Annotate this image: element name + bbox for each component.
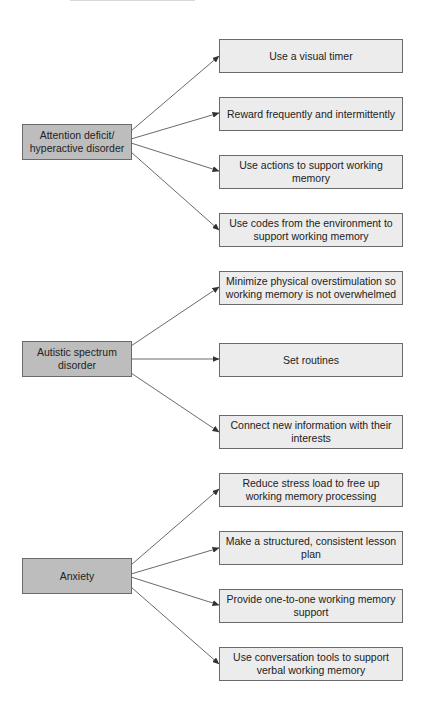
strategy-label: Connect new information with their inter…: [224, 419, 398, 445]
strategy-label: Reward frequently and intermittently: [227, 108, 395, 121]
strategy-label: Use actions to support working memory: [224, 159, 398, 185]
category-label: Autistic spectrum disorder: [27, 346, 127, 372]
strategy-label: Provide one-to-one working memory suppor…: [224, 593, 398, 619]
strategy-lesson-plan: Make a structured, consistent lesson pla…: [219, 531, 403, 565]
strategy-one-to-one: Provide one-to-one working memory suppor…: [219, 589, 403, 623]
strategy-reduce-stress: Reduce stress load to free up working me…: [219, 473, 403, 507]
category-anxiety: Anxiety: [22, 558, 132, 594]
category-adhd: Attention deficit/ hyperactive disorder: [22, 124, 132, 160]
strategy-actions: Use actions to support working memory: [219, 155, 403, 189]
strategy-reward: Reward frequently and intermittently: [219, 97, 403, 131]
strategy-visual-timer: Use a visual timer: [219, 39, 403, 73]
strategy-label: Reduce stress load to free up working me…: [224, 477, 398, 503]
category-label: Attention deficit/ hyperactive disorder: [27, 129, 127, 155]
strategy-label: Set routines: [283, 354, 339, 367]
strategy-label: Make a structured, consistent lesson pla…: [224, 535, 398, 561]
strategy-label: Use conversation tools to support verbal…: [224, 651, 398, 677]
category-autistic: Autistic spectrum disorder: [22, 341, 132, 377]
category-label: Anxiety: [60, 570, 94, 583]
strategy-label: Use codes from the environment to suppor…: [224, 217, 398, 243]
strategy-conversation-tools: Use conversation tools to support verbal…: [219, 647, 403, 681]
strategy-connect-interests: Connect new information with their inter…: [219, 415, 403, 449]
strategy-minimize-overstimulation: Minimize physical overstimulation so wor…: [219, 271, 403, 305]
strategy-label: Use a visual timer: [269, 50, 352, 63]
strategy-label: Minimize physical overstimulation so wor…: [224, 275, 398, 301]
strategy-codes: Use codes from the environment to suppor…: [219, 213, 403, 247]
strategy-set-routines: Set routines: [219, 343, 403, 377]
